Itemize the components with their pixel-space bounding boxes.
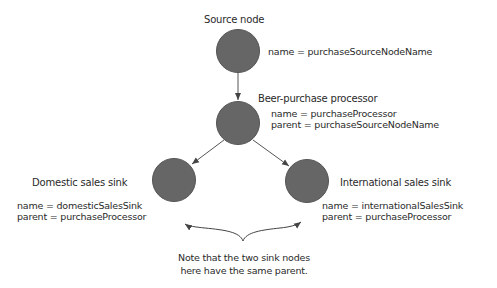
domestic-sink-name: name = domesticSalesSink (17, 200, 142, 211)
processor-node-title: Beer-purchase processor (258, 93, 377, 104)
domestic-sink-node[interactable] (152, 158, 196, 202)
processor-node-parent: parent = purchaseSourceNodeName (271, 119, 439, 130)
source-node-name: name = purchaseSourceNodeName (268, 46, 432, 57)
source-node-title: Source node (204, 14, 264, 25)
international-sink-title: International sales sink (340, 177, 451, 188)
edge-processor-to-domestic (192, 140, 224, 164)
international-sink-parent: parent = purchaseProcessor (322, 211, 451, 222)
international-sink-node[interactable] (285, 159, 329, 203)
processor-node[interactable] (216, 101, 260, 145)
topology-diagram: Source node name = purchaseSourceNodeNam… (0, 0, 497, 288)
brace-left-arrow (185, 224, 243, 241)
brace-right-arrow (243, 222, 301, 241)
domestic-sink-title: Domestic sales sink (32, 177, 127, 188)
edge-processor-to-international (253, 140, 289, 166)
annotation-line-1: Note that the two sink nodes (166, 251, 322, 264)
annotation-line-2: here have the same parent. (166, 264, 322, 277)
processor-node-name: name = purchaseProcessor (271, 108, 397, 119)
international-sink-name: name = internationalSalesSink (322, 200, 463, 211)
annotation-note: Note that the two sink nodes here have t… (166, 251, 322, 277)
domestic-sink-parent: parent = purchaseProcessor (17, 211, 146, 222)
source-node[interactable] (216, 29, 260, 73)
